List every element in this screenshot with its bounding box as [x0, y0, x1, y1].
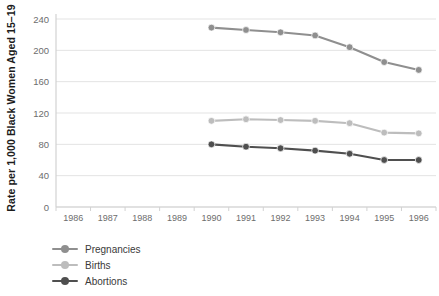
x-tick-label: 1992 — [271, 213, 291, 223]
data-point-pregnancies-1995 — [381, 59, 388, 66]
legend-item-pregnancies[interactable]: Pregnancies — [52, 241, 252, 257]
line-chart-figure: Rate per 1,000 Black Women Aged 15–19 04… — [0, 0, 439, 296]
legend-label-pregnancies: Pregnancies — [85, 244, 141, 255]
x-tick-label: 1987 — [98, 213, 118, 223]
data-point-abortions-1994 — [346, 150, 353, 157]
data-point-births-1991 — [243, 116, 250, 123]
y-tick-label: 160 — [33, 76, 49, 87]
data-point-pregnancies-1993 — [312, 32, 319, 39]
legend-dot-abortions — [61, 277, 69, 285]
legend-marker-births — [52, 259, 78, 271]
x-tick-label: 1988 — [132, 213, 152, 223]
legend-marker-abortions — [52, 275, 78, 287]
data-point-pregnancies-1996 — [415, 67, 422, 74]
gridlines-group — [56, 19, 436, 207]
y-axis-tick-labels: 04080120160200240 — [33, 14, 49, 213]
data-point-abortions-1993 — [312, 147, 319, 154]
data-point-abortions-1992 — [277, 145, 284, 152]
y-tick-label: 40 — [38, 170, 49, 181]
x-tick-label: 1996 — [409, 213, 429, 223]
legend-label-births: Births — [85, 260, 111, 271]
data-point-pregnancies-1992 — [277, 29, 284, 36]
data-point-births-1994 — [346, 120, 353, 127]
data-point-pregnancies-1991 — [243, 27, 250, 34]
x-tick-label: 1990 — [201, 213, 221, 223]
y-tick-label: 240 — [33, 14, 49, 25]
data-point-abortions-1995 — [381, 157, 388, 164]
data-point-births-1992 — [277, 117, 284, 124]
x-axis-tick-labels: 1986198719881989199019911992199319941995… — [63, 213, 428, 223]
chart-legend: Pregnancies Births Abortions — [52, 241, 252, 289]
y-tick-label: 0 — [44, 202, 49, 213]
x-tick-label: 1991 — [236, 213, 256, 223]
y-tick-label: 200 — [33, 45, 49, 56]
y-tick-label: 120 — [33, 108, 49, 119]
data-point-abortions-1996 — [415, 157, 422, 164]
x-axis-tick-marks — [56, 207, 436, 211]
legend-marker-pregnancies — [52, 243, 78, 255]
legend-item-abortions[interactable]: Abortions — [52, 273, 252, 289]
data-point-births-1990 — [208, 117, 215, 124]
data-point-births-1995 — [381, 129, 388, 136]
legend-dot-pregnancies — [61, 245, 69, 253]
legend-dot-births — [61, 261, 69, 269]
y-tick-label: 80 — [38, 139, 49, 150]
data-point-births-1996 — [415, 130, 422, 137]
data-point-pregnancies-1994 — [346, 44, 353, 51]
x-tick-label: 1986 — [63, 213, 83, 223]
data-series-group — [208, 24, 422, 163]
legend-item-births[interactable]: Births — [52, 257, 252, 273]
x-tick-label: 1994 — [340, 213, 360, 223]
data-point-abortions-1990 — [208, 141, 215, 148]
data-point-pregnancies-1990 — [208, 24, 215, 31]
data-point-births-1993 — [312, 117, 319, 124]
data-point-abortions-1991 — [243, 143, 250, 150]
x-tick-label: 1995 — [374, 213, 394, 223]
legend-label-abortions: Abortions — [85, 276, 127, 287]
x-tick-label: 1989 — [167, 213, 187, 223]
x-tick-label: 1993 — [305, 213, 325, 223]
